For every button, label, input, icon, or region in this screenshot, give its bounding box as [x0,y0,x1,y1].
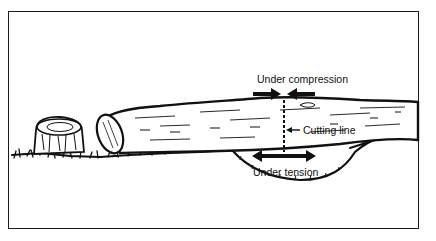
tree-stump [34,117,84,154]
log-illustration [0,0,436,241]
cutting-line-label: Cutting line [303,125,356,136]
fallen-log [92,97,418,157]
under-tension-label: Under tension [253,167,318,178]
under-compression-label: Under compression [257,74,348,85]
